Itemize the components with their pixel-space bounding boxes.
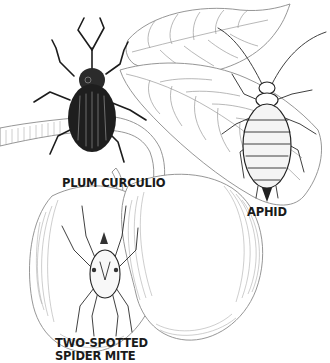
aphid-label: APHID [247, 206, 287, 219]
pest-illustration: PLUM CURCULIO APHID TWO-SPOTTED SPIDER M… [0, 0, 330, 363]
plum-curculio-label: PLUM CURCULIO [62, 177, 165, 190]
spider-mite-label-line2: SPIDER MITE [55, 350, 148, 363]
spider-mite-label: TWO-SPOTTED SPIDER MITE [55, 337, 148, 363]
